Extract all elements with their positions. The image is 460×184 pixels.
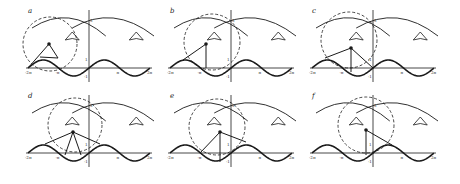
y-tick-label: -1 — [368, 159, 372, 164]
y-tick-label: -1 — [84, 74, 88, 79]
y-tick-label: 5 — [374, 103, 377, 108]
center-point — [204, 42, 208, 46]
x-tick-label: -2π — [167, 70, 174, 75]
upper-arch-0 — [316, 18, 390, 36]
center-point — [349, 46, 353, 50]
panel-label: a — [28, 7, 32, 15]
y-tick-label: 1 — [85, 142, 88, 147]
upper-arch-1 — [214, 103, 296, 121]
swallowtail-cusp-1 — [413, 32, 427, 40]
upper-arch-1 — [72, 18, 154, 36]
upper-arch-0 — [174, 103, 248, 121]
swallowtail-cusp-0 — [65, 32, 79, 40]
figure-stage: a-2π-ππ2π1-15b-2π-ππ2π1-15c-2π-ππ2π1-15d… — [0, 0, 460, 184]
upper-arch-0 — [32, 103, 106, 121]
x-tick-label: -2π — [309, 155, 316, 160]
upper-arch-1 — [72, 103, 154, 121]
x-tick-label: -π — [340, 70, 344, 75]
swallowtail-cusp-0 — [349, 32, 363, 40]
x-tick-label: -2π — [25, 70, 32, 75]
x-tick-label: 2π — [147, 70, 153, 75]
x-tick-label: π — [117, 155, 120, 160]
construction-line-0 — [325, 48, 351, 58]
swallowtail-cusp-0 — [207, 117, 221, 125]
y-tick-label: 5 — [90, 103, 93, 108]
center-point — [47, 42, 51, 46]
x-tick-label: -2π — [167, 155, 174, 160]
y-tick-label: 1 — [227, 57, 230, 62]
dashed-circle — [48, 98, 102, 152]
x-tick-label: -π — [56, 70, 60, 75]
x-tick-label: -π — [198, 70, 202, 75]
swallowtail-cusp-1 — [271, 32, 285, 40]
swallowtail-cusp-0 — [349, 117, 363, 125]
swallowtail-cusp-1 — [129, 32, 143, 40]
panel-f: f-2π-ππ2π1-15 — [309, 92, 438, 167]
panel-c: c-2π-ππ2π1-15 — [309, 7, 438, 82]
panel-b: b-2π-ππ2π1-15 — [167, 7, 296, 82]
panel-label: d — [28, 92, 33, 100]
construction-line-0 — [28, 44, 49, 68]
x-tick-label: -π — [56, 155, 60, 160]
x-tick-label: 2π — [289, 70, 295, 75]
construction-line-2 — [220, 132, 246, 142]
swallowtail-cusp-0 — [207, 32, 221, 40]
y-tick-label: 5 — [374, 18, 377, 23]
x-tick-label: 2π — [289, 155, 295, 160]
y-tick-label: 1 — [85, 57, 88, 62]
x-tick-label: π — [259, 70, 262, 75]
six-panel-diagram: a-2π-ππ2π1-15b-2π-ππ2π1-15c-2π-ππ2π1-15d… — [0, 0, 460, 184]
x-tick-label: π — [401, 155, 404, 160]
y-tick-label: 1 — [227, 142, 230, 147]
construction-line-0 — [200, 132, 220, 153]
x-tick-label: -2π — [25, 155, 32, 160]
y-tick-label: 5 — [90, 18, 93, 23]
x-tick-label: 2π — [147, 155, 153, 160]
swallowtail-cusp-1 — [413, 117, 427, 125]
panel-d: d-2π-ππ2π1-15 — [25, 92, 154, 167]
upper-arch-0 — [316, 103, 390, 121]
construction-line-2 — [40, 57, 58, 58]
x-tick-label: π — [259, 155, 262, 160]
swallowtail-cusp-1 — [271, 117, 285, 125]
x-tick-label: π — [117, 70, 120, 75]
center-point — [71, 130, 75, 134]
y-tick-label: -1 — [84, 159, 88, 164]
y-tick-label: -1 — [226, 159, 230, 164]
panel-e: e-2π-ππ2π1-15 — [167, 92, 296, 167]
panel-a: a-2π-ππ2π1-15 — [23, 7, 154, 82]
x-tick-label: -π — [198, 155, 202, 160]
upper-arch-1 — [214, 18, 296, 36]
center-point — [364, 128, 368, 132]
panel-label: f — [311, 92, 316, 100]
dashed-circle — [189, 99, 245, 155]
y-tick-label: 1 — [369, 142, 372, 147]
y-tick-label: 1 — [369, 57, 372, 62]
x-tick-label: π — [401, 70, 404, 75]
y-tick-label: -1 — [226, 74, 230, 79]
swallowtail-cusp-1 — [129, 117, 143, 125]
y-tick-label: 5 — [232, 18, 235, 23]
x-tick-label: 2π — [431, 70, 437, 75]
panel-label: e — [170, 92, 174, 100]
swallowtail-cusp-0 — [65, 117, 79, 125]
x-tick-label: 2π — [431, 155, 437, 160]
center-point — [218, 130, 222, 134]
construction-line-0 — [183, 44, 206, 60]
upper-arch-0 — [32, 18, 106, 36]
panel-label: c — [312, 7, 316, 15]
upper-arch-1 — [356, 18, 438, 36]
x-tick-label: -2π — [309, 70, 316, 75]
construction-line-1 — [49, 44, 58, 58]
upper-arch-1 — [356, 103, 438, 121]
x-tick-label: -π — [340, 155, 344, 160]
panel-label: b — [170, 7, 175, 15]
y-tick-label: -1 — [368, 74, 372, 79]
